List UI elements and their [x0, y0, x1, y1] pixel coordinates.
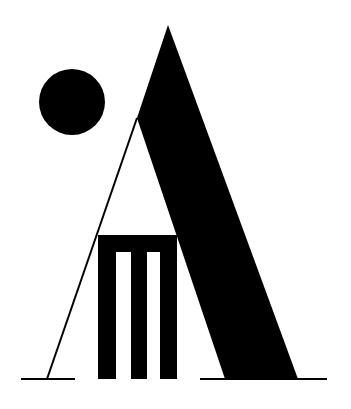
logo-graphic — [0, 0, 351, 409]
wicket-stump-right — [160, 235, 177, 379]
cricket-wicket-icon — [98, 235, 177, 379]
wicket-stump-middle — [131, 235, 147, 379]
wicket-stump-left — [98, 235, 116, 379]
cricket-ball-icon — [39, 69, 105, 135]
cricket-a-logo — [0, 0, 351, 409]
